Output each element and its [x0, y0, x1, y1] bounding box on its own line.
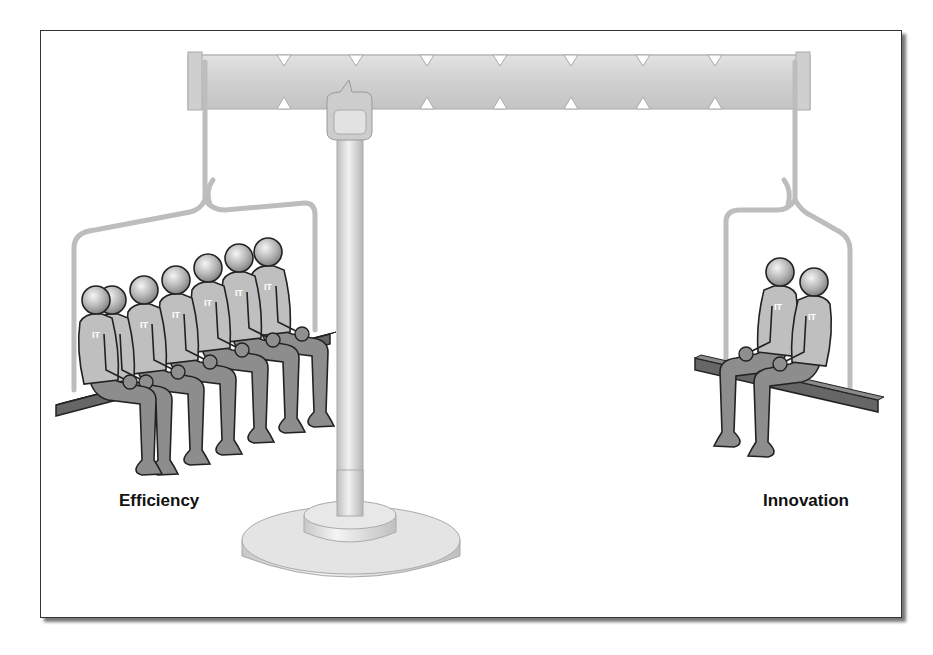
innovation-label: Innovation — [763, 491, 849, 511]
scale-base — [242, 470, 460, 577]
efficiency-label: Efficiency — [119, 491, 199, 511]
balance-beam — [188, 52, 810, 110]
innovation-group — [714, 258, 831, 457]
efficiency-group — [79, 238, 334, 475]
balance-scale-illustration: IT IT — [0, 0, 933, 655]
pivot-pole — [327, 80, 372, 518]
